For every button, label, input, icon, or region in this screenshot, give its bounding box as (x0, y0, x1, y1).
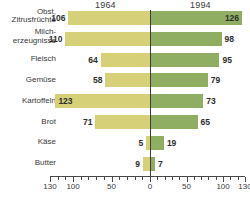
value-label-1964: 9 (117, 157, 140, 171)
value-label-1994: 95 (222, 53, 231, 67)
axis-tick-major (223, 177, 224, 182)
value-label-1964: 71 (69, 115, 92, 129)
axis-tick-label: 130 (38, 182, 62, 191)
category-label: Brot (0, 118, 56, 127)
axis-tick-minor (230, 177, 231, 180)
value-label-1964: 58 (79, 73, 102, 87)
axis-tick-label: 130 (233, 182, 250, 191)
axis-tick-major (112, 177, 113, 182)
axis-tick-minor (96, 177, 97, 180)
bar-1994 (150, 32, 222, 46)
value-label-1994: 126 (220, 11, 239, 25)
axis-tick-label: 50 (100, 182, 124, 191)
bar-1994 (150, 53, 219, 67)
category-label: Butter (0, 159, 56, 168)
bar-1964 (143, 157, 150, 171)
axis-tick-label: 100 (61, 182, 85, 191)
bar-1994 (150, 115, 198, 129)
bar-1964 (65, 32, 150, 46)
value-label-1994: 98 (225, 32, 234, 46)
category-label: Gemüse (0, 76, 56, 85)
category-label-line1: Käse (38, 137, 56, 146)
zero-axis-line (150, 10, 151, 177)
value-label-1994: 73 (206, 94, 215, 108)
axis-tick-minor (127, 177, 128, 180)
column-header-1964: 1964 (95, 0, 116, 10)
axis-tick-major (245, 177, 246, 182)
bar-1964 (101, 53, 150, 67)
axis-tick-minor (179, 177, 180, 180)
axis-tick-major (150, 177, 151, 182)
axis-tick-minor (238, 177, 239, 180)
category-label-line1: Butter (35, 158, 56, 167)
axis-tick-minor (194, 177, 195, 180)
axis-tick-label: 50 (175, 182, 199, 191)
value-label-1994: 7 (158, 157, 163, 171)
axis-tick-minor (135, 177, 136, 180)
axis-tick-minor (65, 177, 66, 180)
value-label-1994: 65 (201, 115, 210, 129)
axis-tick-minor (216, 177, 217, 180)
bar-1994 (150, 73, 208, 87)
category-label: Kartoffeln (0, 97, 56, 106)
value-label-1994: 79 (211, 73, 220, 87)
axis-tick-minor (201, 177, 202, 180)
category-label-line1: Fleisch (31, 54, 56, 63)
axis-tick-label: 0 (138, 182, 162, 191)
axis-tick-minor (104, 177, 105, 180)
category-label: Fleisch (0, 55, 56, 64)
value-label-1994: 19 (167, 136, 176, 150)
value-label-1964: 64 (75, 53, 98, 67)
column-header-1994: 1994 (190, 0, 211, 10)
value-label-1964: 5 (120, 136, 143, 150)
axis-tick-minor (58, 177, 59, 180)
diverging-bar-chart: 1964 1994 Obst,Zitrusfrüchte106126Milch-… (0, 0, 250, 197)
category-label-line1: Kartoffeln (22, 96, 56, 105)
axis-tick-minor (119, 177, 120, 180)
value-label-1964: 110 (39, 32, 62, 46)
bar-1964 (68, 11, 150, 25)
axis-tick-minor (208, 177, 209, 180)
axis-tick-minor (81, 177, 82, 180)
value-label-1964: 106 (42, 11, 65, 25)
axis-tick-minor (165, 177, 166, 180)
axis-tick-major (187, 177, 188, 182)
axis-tick-label: 100 (211, 182, 235, 191)
category-label: Käse (0, 138, 56, 147)
bar-1964 (105, 73, 150, 87)
axis-tick-minor (157, 177, 158, 180)
bar-1994 (150, 136, 164, 150)
category-label-line1: Brot (41, 117, 56, 126)
axis-tick-minor (88, 177, 89, 180)
axis-tick-minor (142, 177, 143, 180)
value-label-1964: 123 (58, 94, 72, 108)
axis-tick-minor (172, 177, 173, 180)
axis-tick-major (50, 177, 51, 182)
bar-1964 (95, 115, 150, 129)
category-label-line1: Gemüse (26, 75, 56, 84)
bar-1994 (150, 94, 203, 108)
axis-tick-major (73, 177, 74, 182)
